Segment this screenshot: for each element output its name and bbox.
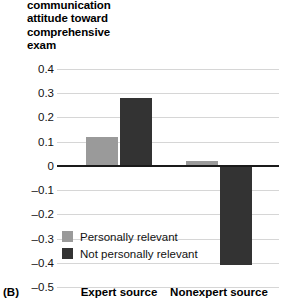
gridline: [57, 93, 279, 94]
y-axis-tick-label: 0: [8, 160, 54, 172]
bar: [120, 98, 152, 166]
panel-letter: (B): [3, 286, 19, 298]
legend-item: Personally relevant: [62, 228, 198, 245]
legend-swatch-icon: [62, 248, 73, 259]
zero-axis-line: [57, 165, 279, 167]
x-axis-tick-labels: Expert sourceNonexpert source: [57, 286, 279, 303]
y-axis-title-line-4: exam: [27, 39, 167, 52]
y-axis-title-line-3: comprehensive: [27, 26, 167, 39]
y-axis-tick-label: 0.1: [8, 136, 54, 148]
y-axis-title-line-2: attitude toward: [27, 12, 167, 25]
y-axis-tick-labels: 0.40.30.20.10–0.1–0.2–0.3–0.4–0.5: [0, 69, 54, 287]
y-axis-tick-label: –0.3: [8, 233, 54, 245]
y-axis-title: communication attitude toward comprehens…: [27, 0, 167, 53]
y-axis-tick-label: –0.2: [8, 208, 54, 220]
y-axis-tick-label: –0.4: [8, 257, 54, 269]
legend-swatch-icon: [62, 231, 73, 242]
legend-label: Personally relevant: [80, 231, 178, 243]
y-axis-title-line-1: communication: [27, 0, 167, 12]
y-axis-tick-label: –0.1: [8, 184, 54, 196]
bar: [220, 166, 252, 265]
gridline: [57, 69, 279, 70]
legend-label: Not personally relevant: [80, 248, 198, 260]
bar: [86, 137, 118, 166]
gridline: [57, 117, 279, 118]
y-axis-tick-label: 0.4: [8, 63, 54, 75]
chart-panel-b: communication attitude toward comprehens…: [0, 0, 285, 303]
y-axis-tick-label: 0.3: [8, 87, 54, 99]
y-axis-tick-label: 0.2: [8, 111, 54, 123]
legend: Personally relevantNot personally releva…: [62, 228, 198, 262]
x-axis-tick-label: Nonexpert source: [159, 286, 279, 298]
legend-item: Not personally relevant: [62, 245, 198, 262]
